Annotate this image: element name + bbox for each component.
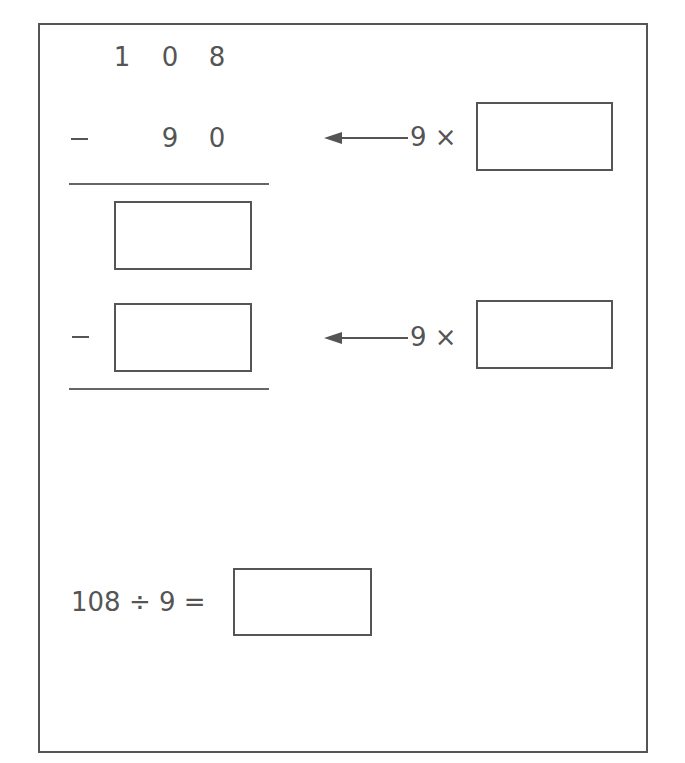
arrow-left-icon: [324, 131, 408, 145]
multiplier-label-step1: 9 ×: [410, 122, 457, 152]
minus-sign-step2: [72, 336, 89, 338]
dividend-digit-tens: 0: [160, 42, 180, 72]
multiplier-answer-box-step1[interactable]: [476, 102, 613, 171]
dividend-digit-ones: 8: [207, 42, 227, 72]
arrow-left-icon: [324, 331, 408, 345]
multiplier-answer-box-step2[interactable]: [476, 300, 613, 369]
dividend-digit-hundreds: 1: [112, 42, 132, 72]
subtraction-rule-1: [69, 183, 269, 185]
subtrahend-answer-box-step2[interactable]: [114, 303, 252, 372]
final-equation-expression: 108 ÷ 9 =: [71, 587, 206, 617]
multiplier-label-step2: 9 ×: [410, 322, 457, 352]
minus-sign-step1: [71, 138, 88, 140]
subtrahend-digit-ones: 0: [207, 123, 227, 153]
subtrahend-digit-tens: 9: [160, 123, 180, 153]
quotient-answer-box[interactable]: [233, 568, 372, 636]
remainder-answer-box-1[interactable]: [114, 201, 252, 270]
subtraction-rule-2: [69, 388, 269, 390]
